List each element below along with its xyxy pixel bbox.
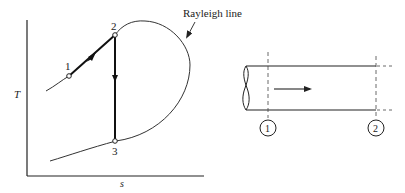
rayleigh-leader-line [187, 22, 195, 37]
point-2 [113, 33, 118, 38]
x-axis-label: s [120, 178, 124, 189]
point-1 [67, 74, 72, 79]
point-3-label: 3 [112, 145, 118, 157]
ts-diagram: 1 2 3 T s Rayleigh line [14, 7, 242, 189]
point-3 [113, 139, 118, 144]
rayleigh-line-label: Rayleigh line [183, 7, 242, 19]
arrow-head-2-3-icon [112, 75, 118, 82]
figure: 1 2 3 T s Rayleigh line 1 2 [0, 0, 405, 193]
rayleigh-line [46, 21, 190, 161]
point-1-label: 1 [65, 60, 71, 72]
station-1-label: 1 [265, 123, 270, 134]
y-axis-label: T [14, 88, 21, 100]
station-2-label: 2 [373, 123, 378, 134]
point-2-label: 2 [111, 20, 117, 32]
duct-break-symbol [243, 66, 249, 110]
duct-diagram: 1 2 [243, 52, 392, 136]
